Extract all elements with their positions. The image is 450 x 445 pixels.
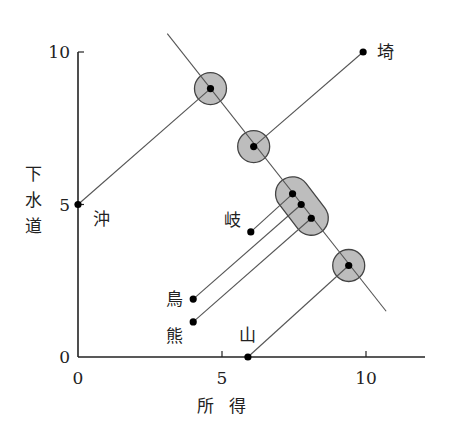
data-point bbox=[244, 353, 251, 360]
x-axis-title-char: 得 bbox=[229, 396, 246, 416]
y-tick-label: 0 bbox=[59, 347, 70, 367]
y-axis-title-char: 道 bbox=[25, 216, 42, 236]
projected-point bbox=[298, 201, 305, 208]
data-point bbox=[190, 318, 197, 325]
x-tick-label: 0 bbox=[73, 368, 84, 388]
scatter-projection-chart: 05100510所得下水道沖埼岐鳥熊山 bbox=[0, 0, 450, 445]
point-label: 埼 bbox=[377, 42, 394, 62]
cluster-highlights bbox=[194, 73, 364, 282]
data-point bbox=[190, 295, 197, 302]
x-axis-title-char: 所 bbox=[197, 396, 214, 416]
y-tick-label: 10 bbox=[48, 42, 70, 62]
projected-point bbox=[308, 215, 315, 222]
point-label: 岐 bbox=[224, 210, 241, 230]
x-tick-label: 5 bbox=[217, 368, 228, 388]
axes bbox=[78, 52, 425, 357]
point-label: 鳥 bbox=[166, 289, 183, 309]
connector-line bbox=[248, 266, 349, 358]
point-label: 沖 bbox=[93, 209, 110, 229]
projection-line bbox=[167, 34, 386, 312]
projected-point bbox=[345, 262, 352, 269]
point-label: 熊 bbox=[166, 326, 183, 346]
point-label: 山 bbox=[239, 325, 256, 345]
data-point bbox=[74, 201, 81, 208]
data-point bbox=[360, 48, 367, 55]
projected-point bbox=[207, 85, 214, 92]
y-axis-title-char: 下 bbox=[25, 164, 42, 184]
projected-point bbox=[289, 190, 296, 197]
connector-line bbox=[254, 52, 363, 147]
data-point bbox=[247, 228, 254, 235]
y-axis-title-char: 水 bbox=[25, 190, 42, 210]
connector-line bbox=[78, 89, 210, 205]
connector-line bbox=[193, 205, 301, 300]
projected-point bbox=[250, 143, 257, 150]
x-tick-label: 10 bbox=[355, 368, 377, 388]
projection-lines bbox=[78, 34, 386, 357]
y-tick-label: 5 bbox=[59, 195, 70, 215]
